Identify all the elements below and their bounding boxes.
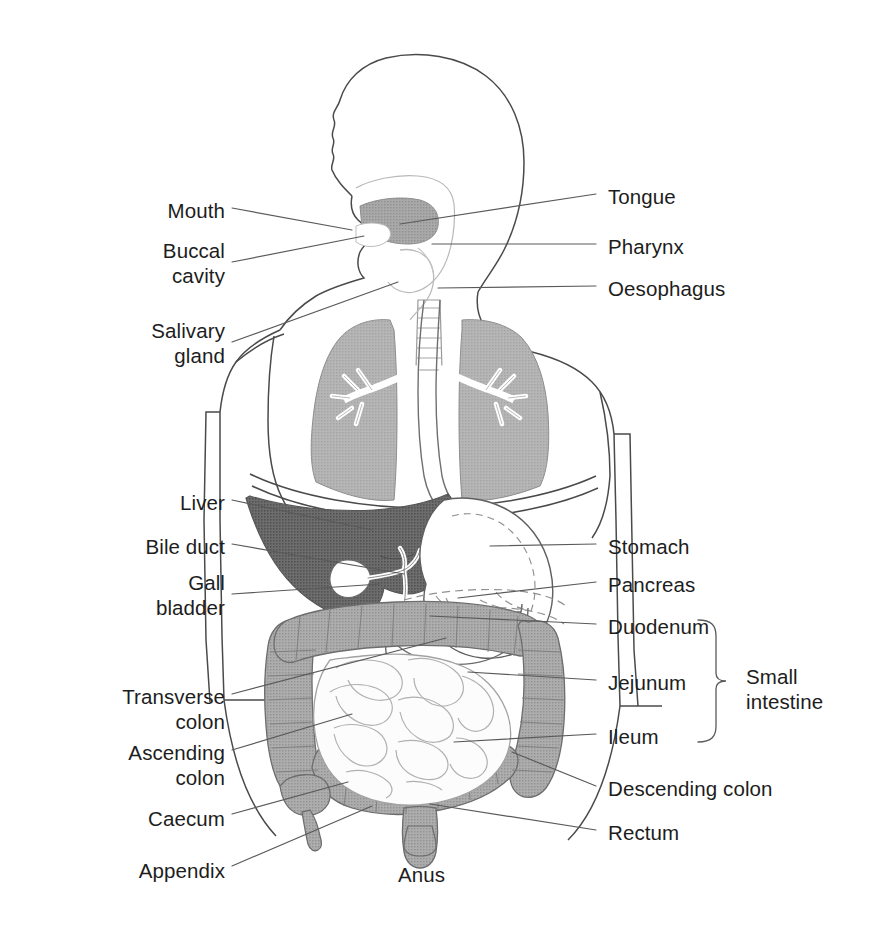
label-oesophagus: Oesophagus: [608, 276, 725, 301]
leader-line-pancreas: [458, 582, 596, 598]
label-rectum: Rectum: [608, 820, 679, 845]
label-anus: Anus: [398, 862, 445, 887]
label-ascending-colon: Ascending colon: [40, 740, 225, 790]
label-appendix: Appendix: [55, 858, 225, 883]
label-bile-duct: Bile duct: [60, 534, 225, 559]
label-buccal-cavity: Buccal cavity: [60, 238, 225, 288]
leader-line-duodenum: [430, 616, 596, 624]
leader-line-stomach: [490, 544, 596, 546]
leader-line-oesophagus: [438, 286, 596, 288]
leader-line-transverse-colon: [232, 638, 446, 694]
label-jejunum: Jejunum: [608, 670, 686, 695]
leader-line-caecum: [232, 782, 348, 814]
label-pharynx: Pharynx: [608, 234, 684, 259]
label-small-intestine: Small intestine: [746, 664, 823, 714]
leader-line-descending-colon: [512, 752, 596, 786]
label-duodenum: Duodenum: [608, 614, 709, 639]
label-salivary-gland: Salivary gland: [60, 318, 225, 368]
label-stomach: Stomach: [608, 534, 690, 559]
leader-line-ileum: [454, 734, 596, 742]
leader-line-mouth: [232, 208, 352, 230]
label-transverse-colon: Transverse colon: [40, 684, 225, 734]
leader-line-liver: [232, 500, 372, 530]
label-pancreas: Pancreas: [608, 572, 695, 597]
leader-line-jejunum: [468, 672, 596, 680]
label-mouth: Mouth: [83, 198, 225, 223]
leader-line-buccal-cavity: [232, 236, 364, 262]
leader-line-appendix: [232, 806, 372, 866]
leader-line-ascending-colon: [232, 714, 352, 750]
leader-line-gall-bladder: [232, 584, 380, 594]
leader-line-rectum: [430, 804, 596, 830]
label-descending-colon: Descending colon: [608, 776, 773, 801]
leader-line-salivary-gland: [232, 282, 398, 342]
leader-line-bile-duct: [232, 544, 404, 574]
label-tongue: Tongue: [608, 184, 676, 209]
label-liver: Liver: [95, 490, 225, 515]
label-gall-bladder: Gall bladder: [60, 570, 225, 620]
digestive-system-figure: MouthBuccal cavitySalivary glandLiverBil…: [0, 0, 885, 930]
leader-line-tongue: [400, 194, 596, 224]
label-ileum: Ileum: [608, 724, 659, 749]
label-caecum: Caecum: [60, 806, 225, 831]
